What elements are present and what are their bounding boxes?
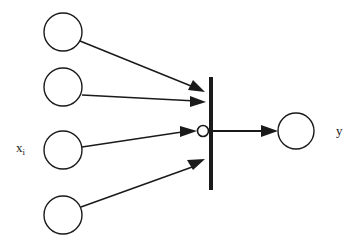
input-node-4[interactable] (44, 196, 82, 234)
output-node[interactable] (278, 113, 314, 149)
arrowhead-input-3 (180, 126, 197, 137)
edge-input-1 (80, 41, 196, 88)
edge-input-2 (82, 95, 196, 101)
arrowhead-output (261, 125, 278, 137)
weight-bar (209, 77, 213, 190)
arrowhead-input-1 (188, 80, 205, 92)
neuron-diagram: xi y (0, 0, 364, 249)
input-label-xi: xi (16, 141, 25, 154)
edge-input-3 (82, 132, 182, 147)
output-label-y: y (336, 124, 343, 137)
edge-input-4 (81, 166, 195, 207)
input-node-1[interactable] (44, 13, 82, 51)
summing-junction-icon (198, 126, 209, 137)
input-node-3[interactable] (44, 131, 82, 169)
arrowhead-input-2 (190, 96, 206, 107)
input-label-subscript: i (23, 147, 26, 157)
diagram-canvas (0, 0, 364, 249)
input-node-2[interactable] (44, 68, 82, 106)
input-label-base: x (16, 140, 23, 155)
